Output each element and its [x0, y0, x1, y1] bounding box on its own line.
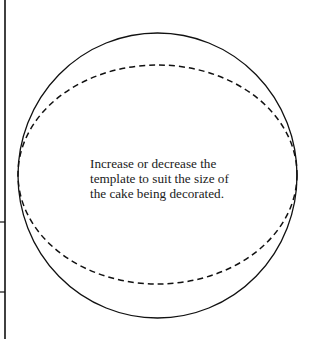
caption-line: Increase or decrease the	[90, 156, 250, 171]
template-diagram: Increase or decrease the template to sui…	[0, 0, 319, 339]
caption-line: the cake being decorated.	[90, 186, 250, 201]
template-caption: Increase or decrease the template to sui…	[90, 156, 250, 201]
caption-line: template to suit the size of	[90, 171, 250, 186]
